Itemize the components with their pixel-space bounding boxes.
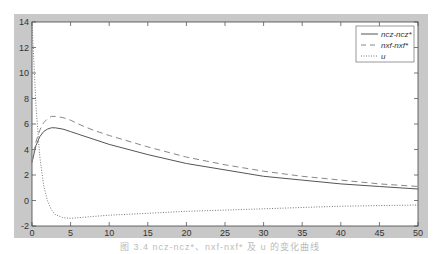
- x-tick-label: 50: [413, 228, 423, 238]
- y-tick-label: 4: [24, 145, 29, 155]
- figure-caption: 图 3.4 ncz-ncz*、nxf-nxf* 及 u 的变化曲线: [0, 240, 440, 253]
- y-tick-label: 14: [19, 17, 29, 27]
- x-tick-label: 25: [220, 228, 230, 238]
- y-tick-label: 12: [19, 43, 29, 53]
- legend-label-ncz: ncz-ncz*: [381, 30, 413, 39]
- legend-label-u: u: [381, 52, 386, 61]
- x-tick-label: 15: [143, 228, 153, 238]
- y-tick-label: 2: [24, 170, 29, 180]
- y-tick-label: 0: [24, 196, 29, 206]
- x-tick-label: 5: [68, 228, 73, 238]
- y-tick-label: -2: [21, 221, 29, 231]
- chart-figure: -202468101214 05101520253035404550 ncz-n…: [0, 0, 440, 254]
- legend: ncz-ncz* nxf-nxf* u: [356, 26, 414, 62]
- y-tick-label: 6: [24, 119, 29, 129]
- y-tick-label: 10: [19, 68, 29, 78]
- x-tick-label: 20: [181, 228, 191, 238]
- x-tick-label: 45: [374, 228, 384, 238]
- x-tick-label: 0: [29, 228, 34, 238]
- x-tick-label: 10: [104, 228, 114, 238]
- legend-label-nxf: nxf-nxf*: [381, 41, 409, 50]
- y-tick-label: 8: [24, 94, 29, 104]
- x-tick-label: 30: [259, 228, 269, 238]
- x-tick-label: 40: [336, 228, 346, 238]
- x-tick-label: 35: [297, 228, 307, 238]
